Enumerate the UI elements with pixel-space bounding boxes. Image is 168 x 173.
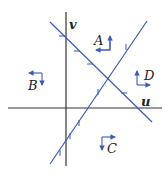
- region-c-label: C: [107, 142, 117, 155]
- region-b-label: B: [28, 79, 38, 92]
- v-axis-label: v: [69, 18, 77, 31]
- phase-plane-diagram: [0, 0, 168, 173]
- u-axis-label: u: [141, 95, 150, 108]
- region-d-label: D: [144, 69, 154, 82]
- region-a-label: A: [94, 34, 103, 47]
